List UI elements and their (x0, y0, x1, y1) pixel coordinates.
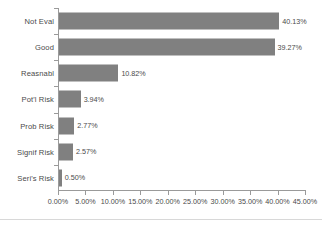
x-axis-tick (113, 191, 114, 195)
category-label: Signif Risk (0, 147, 54, 156)
bar (59, 39, 275, 56)
bar-value-label: 10.82% (118, 69, 145, 78)
bar-row: Not Eval40.13% (0, 8, 322, 34)
bar (59, 13, 279, 30)
category-label: Not Eval (0, 17, 54, 26)
x-axis-tick (223, 191, 224, 195)
category-label: Good (0, 43, 54, 52)
y-axis-tick (54, 34, 58, 35)
bar-container: 2.77% (59, 117, 306, 134)
bar-value-label: 3.94% (81, 95, 104, 104)
y-axis-tick (54, 139, 58, 140)
x-axis-tick-label: 10.00% (101, 197, 125, 206)
x-axis-tick (140, 191, 141, 195)
bar-chart: Not Eval40.13%Good39.27%Reasnabl10.82%Po… (0, 0, 322, 226)
x-axis-tick (168, 191, 169, 195)
x-axis-tick-label: 45.00% (293, 197, 317, 206)
category-label: Seri's Risk (0, 173, 54, 182)
bar-row: Prob Risk2.77% (0, 113, 322, 139)
bar-container: 39.27% (59, 39, 306, 56)
x-axis-tick-label: 0.00% (48, 197, 68, 206)
bar-row: Good39.27% (0, 34, 322, 60)
y-axis-tick (54, 60, 58, 61)
bar-row: Reasnabl10.82% (0, 60, 322, 86)
x-axis-tick (195, 191, 196, 195)
bar-row: Pot'l Risk3.94% (0, 86, 322, 112)
bar-value-label: 2.77% (74, 121, 97, 130)
bar (59, 143, 73, 160)
bar-container: 10.82% (59, 65, 306, 82)
x-axis-tick-label: 35.00% (238, 197, 262, 206)
bar-container: 0.50% (59, 169, 306, 186)
bar-container: 40.13% (59, 13, 306, 30)
y-axis-tick (54, 165, 58, 166)
x-axis-tick (250, 191, 251, 195)
bar-value-label: 40.13% (279, 17, 306, 26)
x-axis-tick (85, 191, 86, 195)
x-axis-tick (278, 191, 279, 195)
bar-container: 2.57% (59, 143, 306, 160)
bottom-divider (0, 219, 322, 220)
y-axis-tick (54, 113, 58, 114)
x-axis-tick-label: 5.00% (75, 197, 95, 206)
y-axis-tick (54, 8, 58, 9)
bar-value-label: 0.50% (62, 173, 85, 182)
category-label: Prob Risk (0, 121, 54, 130)
bar-row: Signif Risk2.57% (0, 139, 322, 165)
x-axis-tick-label: 30.00% (210, 197, 234, 206)
category-label: Pot'l Risk (0, 95, 54, 104)
y-axis-tick (54, 86, 58, 87)
x-axis-tick-label: 20.00% (156, 197, 180, 206)
bar-value-label: 39.27% (275, 43, 302, 52)
x-axis-tick (305, 191, 306, 195)
x-axis-tick-label: 40.00% (265, 197, 289, 206)
x-axis-tick-label: 15.00% (128, 197, 152, 206)
x-axis-ticks: 0.00%5.00%10.00%15.00%20.00%25.00%30.00%… (58, 191, 306, 215)
bar-value-label: 2.57% (73, 147, 96, 156)
bar (59, 65, 118, 82)
x-axis-tick (58, 191, 59, 195)
bar (59, 91, 81, 108)
bar-container: 3.94% (59, 91, 306, 108)
bar-row: Seri's Risk0.50% (0, 165, 322, 191)
bar-rows: Not Eval40.13%Good39.27%Reasnabl10.82%Po… (0, 8, 322, 191)
x-axis-tick-label: 25.00% (183, 197, 207, 206)
category-label: Reasnabl (0, 69, 54, 78)
bar (59, 117, 74, 134)
